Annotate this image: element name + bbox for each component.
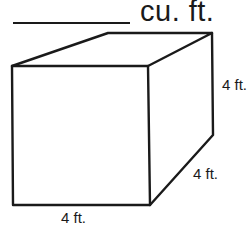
prism-front-face xyxy=(12,66,150,205)
width-label: 4 ft. xyxy=(61,210,86,226)
rectangular-prism-figure xyxy=(0,0,249,233)
depth-label: 4 ft. xyxy=(193,166,218,182)
prism-top-face xyxy=(12,33,212,66)
height-label: 4 ft. xyxy=(222,77,247,93)
